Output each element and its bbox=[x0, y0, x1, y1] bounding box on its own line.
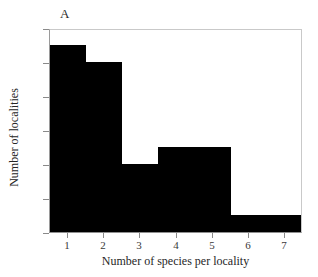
x-axis-tick-label: 7 bbox=[281, 239, 287, 251]
bar bbox=[86, 62, 122, 232]
x-axis-title: Number of species per locality bbox=[49, 255, 302, 268]
plot-area bbox=[49, 29, 302, 233]
bar bbox=[50, 45, 86, 232]
x-axis-tick bbox=[103, 233, 104, 238]
x-axis-tick-label: 1 bbox=[64, 239, 70, 251]
bar bbox=[267, 215, 302, 232]
bar bbox=[122, 164, 158, 232]
x-axis-tick-label: 3 bbox=[136, 239, 142, 251]
x-axis-tick-label: 6 bbox=[245, 239, 251, 251]
x-axis-tick-label: 4 bbox=[173, 239, 179, 251]
x-axis-tick bbox=[176, 233, 177, 238]
x-axis-tick-label: 2 bbox=[100, 239, 106, 251]
histogram-figure: A 024681012 1234567 Number of localities… bbox=[0, 0, 318, 277]
x-axis-tick bbox=[67, 233, 68, 238]
x-axis-tick-label: 5 bbox=[209, 239, 215, 251]
bar-series bbox=[50, 30, 301, 232]
x-axis-tick bbox=[248, 233, 249, 238]
x-axis-tick bbox=[212, 233, 213, 238]
x-axis-tick bbox=[284, 233, 285, 238]
panel-label: A bbox=[60, 7, 70, 21]
x-axis-tick bbox=[139, 233, 140, 238]
y-axis-tick bbox=[43, 233, 49, 234]
bar bbox=[158, 147, 194, 232]
bar bbox=[195, 147, 231, 232]
bar bbox=[231, 215, 267, 232]
y-axis-title: Number of localities bbox=[8, 63, 21, 213]
